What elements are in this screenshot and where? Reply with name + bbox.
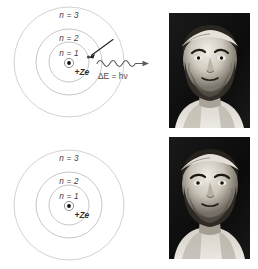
photon-arrowhead <box>143 61 150 66</box>
label-n3: n = 3 <box>59 154 79 163</box>
portrait-engraving-upper <box>169 13 250 128</box>
bohr-atom-ground-state-diagram: n = 3 n = 2 n = 1 +Ze <box>0 140 165 265</box>
pupil-left <box>197 56 200 59</box>
label-n2: n = 2 <box>59 34 79 43</box>
portrait-lower-svg <box>169 137 250 259</box>
portrait-upper-svg <box>169 13 250 128</box>
atom-ground-svg: n = 3 n = 2 n = 1 +Ze <box>0 140 165 265</box>
label-n2: n = 2 <box>59 177 79 186</box>
nucleus-dot <box>67 204 71 208</box>
label-n3: n = 3 <box>59 11 79 20</box>
portrait-engraving-lower <box>169 137 250 259</box>
pupil-right <box>220 181 224 185</box>
nucleus-charge-label: +Ze <box>75 67 90 77</box>
portrait-frame <box>169 13 250 128</box>
portrait-frame <box>169 137 250 259</box>
nucleus-dot <box>67 61 71 65</box>
pupil-right <box>220 56 223 59</box>
atom-emission-svg: n = 3 n = 2 n = 1 +Ze ΔE = hν <box>0 6 165 131</box>
nucleus-charge-label: +Ze <box>75 210 90 220</box>
pupil-left <box>196 181 200 185</box>
figure-root: n = 3 n = 2 n = 1 +Ze ΔE = hν n = 3 n = … <box>0 0 258 269</box>
label-n1: n = 1 <box>59 49 78 58</box>
photon-wave <box>97 60 144 66</box>
photon-energy-label: ΔE = hν <box>98 71 128 81</box>
bohr-atom-emission-diagram: n = 3 n = 2 n = 1 +Ze ΔE = hν <box>0 6 165 131</box>
label-n1: n = 1 <box>59 192 78 201</box>
